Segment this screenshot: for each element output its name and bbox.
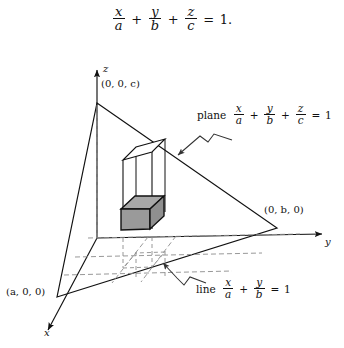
fraction-denominator: b [254,289,265,300]
coordinate-diagram [0,0,344,348]
annotation-rhs: 1 [284,284,291,295]
fraction-y-over-b: y b [254,277,265,299]
grid-line-base-3 [64,271,232,275]
fraction-x-over-a: x a [234,103,244,125]
plus-operator: + [238,284,250,295]
fraction-denominator: b [264,115,275,126]
grid-line-depth-2 [141,236,176,282]
z-axis-label: z [103,63,108,74]
x-axis-label: x [44,327,50,338]
prism-top-face [123,139,165,160]
a-intercept-label: (a, 0, 0) [6,286,45,297]
c-intercept-label: (0, 0, c) [101,78,140,89]
plus-operator: + [248,110,260,121]
line-annotation-word: line [196,284,219,295]
volume-element-front-face [121,209,150,230]
plane-annotation-word: plane [197,110,229,121]
annotation-rhs: 1 [325,110,332,121]
x-axis [48,238,97,330]
y-axis-label: y [325,236,331,247]
plane-annotation: plane x a + y b + z c = 1 [197,104,332,126]
b-intercept-label: (0, b, 0) [264,204,304,215]
figure-root: x a + y b + z c = 1. [0,0,344,348]
equals-operator: = [269,284,281,295]
fraction-y-over-b: y b [264,103,275,125]
plus-operator: + [280,110,292,121]
line-annotation: line x a + y b = 1 [196,278,291,300]
equals-operator: = [310,110,322,121]
fraction-denominator: a [234,115,244,126]
fraction-z-over-c: z c [296,103,306,125]
fraction-denominator: a [223,289,233,300]
fraction-denominator: c [296,115,306,126]
plane-leader-line [178,134,232,155]
fraction-x-over-a: x a [223,277,233,299]
grid-line-base-2 [75,253,262,257]
